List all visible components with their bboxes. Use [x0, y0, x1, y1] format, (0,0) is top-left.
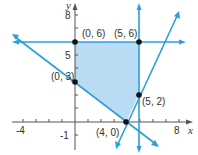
vertex-label-5-6: (5, 6) — [114, 28, 137, 39]
x-tick-minus-4: -4 — [16, 125, 25, 136]
y-tick-5: 5 — [65, 50, 71, 61]
y-axis-label: y — [65, 0, 71, 11]
vertex-4-0 — [123, 119, 129, 125]
x-axis — [12, 119, 193, 125]
vertex-label-0-3: (0, 3) — [51, 71, 74, 82]
vertex-0-6 — [72, 39, 78, 45]
y-tick-8: 8 — [65, 10, 71, 21]
vertex-5-2 — [136, 92, 142, 98]
y-tick-minus-1: -1 — [60, 130, 69, 141]
vertex-label-5-2: (5, 2) — [142, 96, 165, 107]
vertex-5-6 — [136, 39, 142, 45]
vertex-label-4-0: (4, 0) — [96, 127, 119, 138]
feasible-region-graph: (0, 6) (5, 6) (0, 3) (5, 2) (4, 0) 8 5 -… — [0, 0, 198, 155]
vertex-label-0-6: (0, 6) — [82, 28, 105, 39]
x-axis-label: x — [187, 124, 193, 136]
feasible-region — [75, 42, 139, 122]
x-tick-8: 8 — [174, 125, 180, 136]
